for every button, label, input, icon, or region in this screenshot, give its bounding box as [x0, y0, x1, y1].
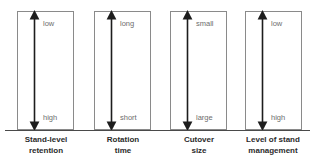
baseline-rule — [5, 130, 310, 131]
bottom-label: high — [43, 113, 57, 122]
caption-stand-level-retention: Stand-level retention — [4, 135, 88, 156]
bottom-label: large — [196, 113, 213, 122]
double-headed-arrow-icon — [28, 10, 41, 131]
caption-level-of-stand-management: Level of stand management — [231, 135, 315, 156]
caption-rotation-time: Rotation time — [81, 135, 165, 156]
caption-cutover-size: Cutover size — [157, 135, 241, 156]
double-headed-arrow-icon — [256, 10, 269, 131]
top-label: low — [43, 19, 54, 28]
top-label: long — [120, 19, 134, 28]
top-label: low — [271, 19, 282, 28]
bottom-label: short — [120, 113, 137, 122]
double-headed-arrow-icon — [181, 10, 194, 131]
panel-level-of-stand-management: low high — [245, 11, 302, 130]
panel-cutover-size: small large — [170, 11, 227, 130]
bottom-label: high — [271, 113, 285, 122]
double-headed-arrow-icon — [105, 10, 118, 131]
top-label: small — [196, 19, 214, 28]
panel-rotation-time: long short — [94, 11, 151, 130]
panel-stand-level-retention: low high — [17, 11, 74, 130]
gradient-diagram-figure: low high long short small large — [0, 0, 315, 161]
